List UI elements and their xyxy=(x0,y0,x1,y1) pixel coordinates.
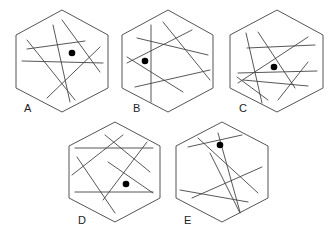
option-e[interactable]: E xyxy=(176,122,268,226)
hexagon-outline xyxy=(230,10,323,112)
option-a[interactable]: A xyxy=(16,10,108,114)
dot-marker xyxy=(271,64,278,71)
hexagon-options-diagram: A B C D E xyxy=(0,0,335,237)
option-d[interactable]: D xyxy=(69,122,160,226)
dot-marker xyxy=(142,58,149,65)
dot-marker xyxy=(217,142,224,149)
hexagon-outline xyxy=(122,10,213,112)
hexagon-outline xyxy=(69,122,160,222)
option-label: C xyxy=(239,102,247,114)
dot-marker xyxy=(69,50,76,57)
option-label: B xyxy=(133,102,140,114)
dot-marker xyxy=(123,181,130,188)
option-c[interactable]: C xyxy=(230,10,323,114)
option-b[interactable]: B xyxy=(122,10,213,114)
puzzle-figure: A B C D E xyxy=(0,0,335,237)
option-label: E xyxy=(184,214,191,226)
option-label: A xyxy=(24,102,32,114)
hexagon-outline xyxy=(176,122,268,222)
option-label: D xyxy=(78,214,86,226)
